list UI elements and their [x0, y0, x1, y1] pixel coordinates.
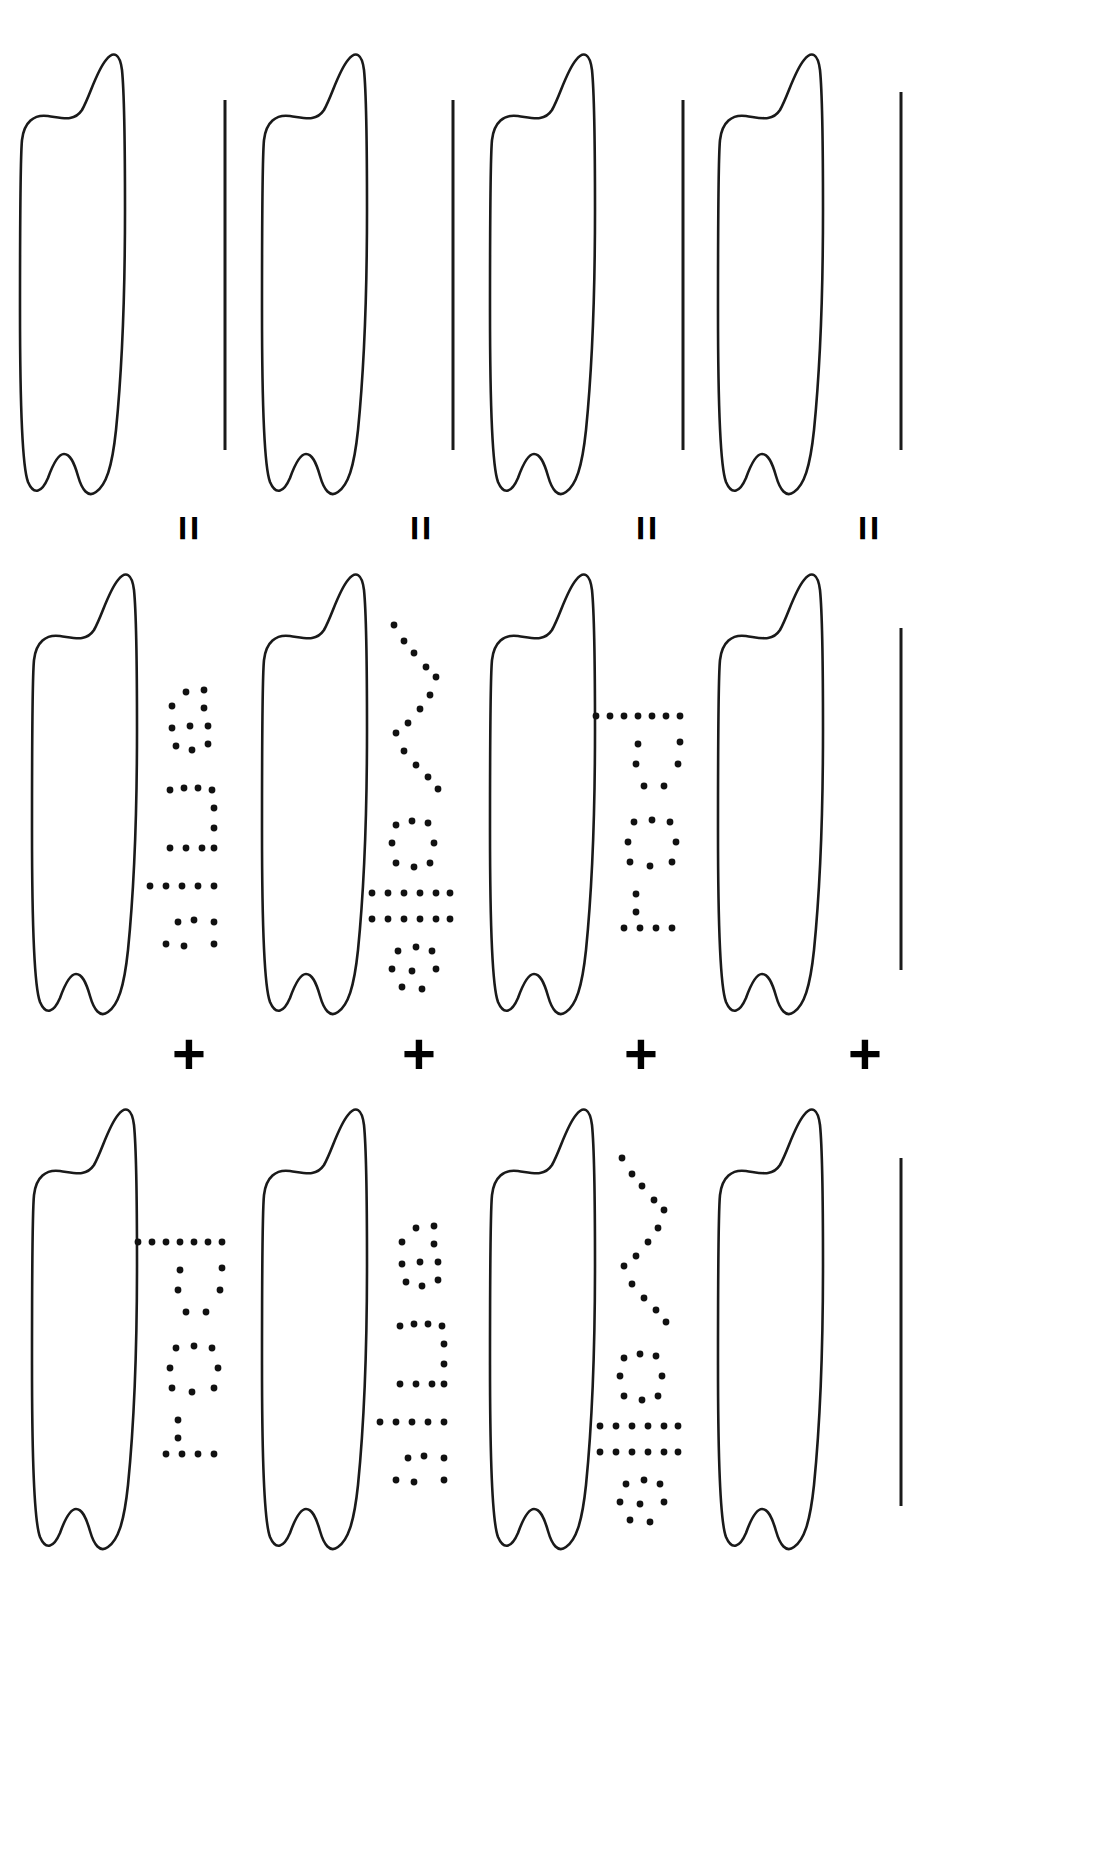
blade-outline-icon — [250, 30, 385, 500]
rule-r1c3 — [680, 100, 686, 450]
blade-outline-icon — [478, 30, 613, 500]
operator-plus-4: + — [848, 1025, 882, 1083]
operator-plus-2: + — [402, 1025, 436, 1083]
dotted-label-r3c1 — [128, 1228, 233, 1458]
dotted-label-r3c3 — [586, 1148, 691, 1528]
cell-r2c4 — [706, 550, 841, 1020]
dotted-label-r3c2 — [358, 1208, 463, 1488]
operator-equals-1: = — [166, 515, 210, 539]
rule-r1c2 — [450, 100, 456, 450]
operator-equals-4: = — [846, 515, 890, 539]
cell-r1c3 — [478, 30, 613, 500]
blade-outline-icon — [706, 1085, 841, 1555]
cell-r3c4 — [706, 1085, 841, 1555]
dotted-label-r2c3 — [586, 702, 691, 932]
operator-equals-2: = — [398, 515, 442, 539]
rule-r2c4 — [898, 628, 904, 970]
operator-equals-3: = — [624, 515, 668, 539]
cell-r1c4 — [706, 30, 841, 500]
cell-r1c2 — [250, 30, 385, 500]
blade-outline-icon — [8, 30, 143, 500]
blade-outline-icon — [706, 30, 841, 500]
rule-r3c4 — [898, 1158, 904, 1506]
rule-r1c1 — [222, 100, 228, 450]
dotted-label-r2c2 — [358, 615, 463, 995]
blade-outline-icon — [706, 550, 841, 1020]
rule-r1c4 — [898, 92, 904, 450]
cell-r1c1 — [8, 30, 143, 500]
figure-canvas: = = = = — [0, 0, 1104, 1858]
operator-plus-1: + — [172, 1025, 206, 1083]
dotted-label-r2c1 — [128, 672, 233, 952]
operator-plus-3: + — [624, 1025, 658, 1083]
